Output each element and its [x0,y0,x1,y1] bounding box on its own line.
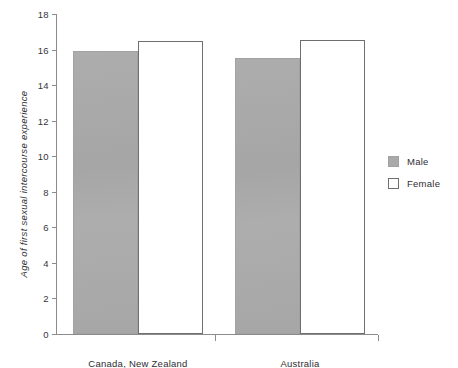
y-axis-tick-label: 0 [43,329,49,340]
y-axis-tick-label: 16 [38,44,49,55]
y-axis-line [56,14,57,335]
y-axis-tick [52,298,57,299]
bar-male-2 [235,58,300,334]
y-axis-tick-label: 4 [43,257,49,268]
legend-label: Female [407,178,440,189]
y-axis-title-text: Age of first sexual intercourse experien… [18,91,29,278]
y-axis-tick-label: 2 [43,293,49,304]
legend-item-male[interactable]: Male [388,150,458,172]
legend-item-female[interactable]: Female [388,172,458,194]
plot-area: 181614121086420 Canada, New ZealandAustr… [56,14,378,334]
y-axis-tick-label: 6 [43,222,49,233]
x-axis-tick [215,335,216,341]
x-axis-category-label: Australia [280,358,319,368]
x-axis-tick [378,335,379,341]
y-axis-tick [52,85,57,86]
y-axis-tick [52,227,57,228]
y-axis-tick-label: 14 [38,80,49,91]
y-axis-tick [52,192,57,193]
y-axis-tick-label: 8 [43,186,49,197]
y-axis-tick-label: 10 [38,151,49,162]
y-axis-tick [52,156,57,157]
legend-label: Male [407,156,429,167]
y-axis-tick [52,50,57,51]
y-axis-tick [52,263,57,264]
legend: MaleFemale [388,150,458,194]
legend-swatch-male-icon [388,156,399,167]
bar-male-1 [73,51,138,334]
y-axis-tick [52,334,57,335]
bar-chart-figure: Age of first sexual intercourse experien… [0,0,458,368]
x-axis-line [56,334,378,335]
y-axis-title: Age of first sexual intercourse experien… [12,0,34,368]
y-axis-tick-label: 12 [38,115,49,126]
legend-swatch-female-icon [388,178,399,189]
bar-female-1 [138,41,203,334]
y-axis-tick [52,121,57,122]
x-axis-category-label: Canada, New Zealand [88,358,187,368]
y-axis-tick [52,14,57,15]
y-axis-tick-label: 18 [38,9,49,20]
bar-female-2 [300,40,365,334]
